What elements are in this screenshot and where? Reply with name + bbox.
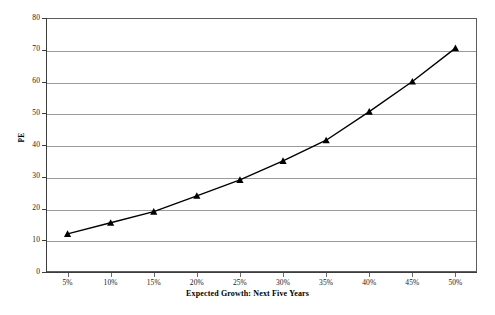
x-axis-tick-label: 50% [440, 278, 470, 287]
y-axis-tick-mark [42, 209, 46, 210]
y-axis-tick-mark [42, 240, 46, 241]
x-axis-tick-label: 10% [96, 278, 126, 287]
x-axis-tick-mark [111, 273, 112, 277]
x-axis-tick-mark [68, 273, 69, 277]
y-axis-tick-label: 60 [18, 77, 40, 85]
y-axis-tick-mark [42, 177, 46, 178]
gridline [47, 146, 476, 147]
x-axis-tick-mark [283, 273, 284, 277]
x-axis-tick-mark [455, 273, 456, 277]
x-axis-tick-mark [197, 273, 198, 277]
y-axis-tick-mark [42, 113, 46, 114]
x-axis-tick-label: 40% [354, 278, 384, 287]
y-axis-tick-label: 50 [18, 109, 40, 117]
x-axis-title: Expected Growth: Next Five Years [0, 289, 495, 298]
x-axis-tick-label: 5% [53, 278, 83, 287]
x-axis-tick-mark [154, 273, 155, 277]
y-axis-tick-label: 0 [18, 268, 40, 276]
x-axis-tick-label: 45% [397, 278, 427, 287]
x-axis-tick-mark [326, 273, 327, 277]
gridline [47, 178, 476, 179]
plot-area [46, 18, 477, 272]
y-axis-tick-mark [42, 18, 46, 19]
y-axis-tick-label: 20 [18, 204, 40, 212]
y-axis-tick-label: 80 [18, 14, 40, 22]
y-axis-tick-label: 70 [18, 45, 40, 53]
x-axis-tick-mark [240, 273, 241, 277]
gridline [47, 83, 476, 84]
y-axis-tick-mark [42, 82, 46, 83]
x-axis-tick-label: 30% [268, 278, 298, 287]
y-axis-title: PE [17, 133, 26, 143]
y-axis-tick-mark [42, 50, 46, 51]
x-axis-tick-label: 20% [182, 278, 212, 287]
x-axis-tick-label: 25% [225, 278, 255, 287]
pe-vs-growth-chart: 01020304050607080 5%10%15%20%25%30%35%40… [0, 0, 495, 315]
y-axis-tick-label: 30 [18, 172, 40, 180]
gridline [47, 51, 476, 52]
y-axis-tick-mark [42, 272, 46, 273]
x-axis-tick-label: 35% [311, 278, 341, 287]
gridline [47, 241, 476, 242]
y-axis-line [46, 18, 47, 273]
x-axis-tick-mark [369, 273, 370, 277]
x-axis-tick-label: 15% [139, 278, 169, 287]
gridline [47, 114, 476, 115]
y-axis-tick-label: 10 [18, 236, 40, 244]
x-axis-tick-mark [412, 273, 413, 277]
y-axis-tick-mark [42, 145, 46, 146]
gridline [47, 210, 476, 211]
